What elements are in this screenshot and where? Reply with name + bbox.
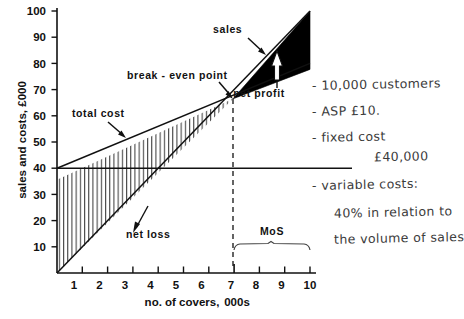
net-loss-label: net loss [126,228,170,240]
net-profit-region [233,11,310,99]
x-tick-label: 7 [228,279,234,291]
note-asp: - ASP £10. [312,103,381,119]
y-tick-label: 40 [33,162,46,174]
x-axis-ticks [82,264,310,273]
x-tick-label: 8 [253,279,260,291]
y-tick-label: 60 [33,110,46,122]
note-fixed-cost-value: £40,000 [348,148,429,165]
x-tick-label: 9 [278,279,284,291]
break-even-annotation: break - even point [127,69,233,99]
y-axis-ticks [52,11,58,247]
y-tick-label: 100 [27,5,46,17]
net-loss-annotation: net loss [126,206,170,240]
note-customers: - 10,000 customers [312,75,441,93]
note-fixed-cost: - fixed cost [312,128,386,145]
x-tick-label: 3 [122,279,128,291]
mos-label: MoS [260,225,284,237]
y-axis-title: sales and costs, £000 [16,81,28,199]
x-tick-label: 4 [147,279,154,291]
y-tick-label: 90 [33,31,46,43]
note-variable-costs: - variable costs: [312,176,419,193]
sales-label: sales [213,23,242,35]
y-tick-label: 20 [33,215,46,227]
x-axis-tick-labels: 1 2 3 4 5 6 7 8 9 10 [71,279,317,291]
sales-annotation: sales [213,23,266,55]
total-cost-label: total cost [72,107,125,119]
y-tick-label: 30 [33,189,46,201]
y-axis-tick-labels: 100 90 80 70 60 50 40 30 20 10 [27,5,46,253]
x-tick-label: 5 [173,279,180,291]
x-axis-title-covers: no. of covers, [145,296,220,308]
note-variable-detail-1: 40% in relation to [322,203,453,221]
x-tick-label: 2 [96,279,102,291]
net-profit-label: net profit [233,87,285,99]
margin-of-safety: MoS [234,225,310,250]
y-tick-label: 50 [33,136,46,148]
total-cost-annotation: total cost [72,107,126,138]
x-tick-label: 10 [304,279,317,291]
net-loss-region [57,99,233,273]
x-tick-label: 6 [198,279,204,291]
x-axis-title-thousands: 000s [224,296,250,308]
y-tick-label: 80 [33,58,46,70]
y-tick-label: 10 [33,241,46,253]
y-tick-label: 70 [33,84,46,96]
note-variable-detail-2: the volume of sales [322,229,464,247]
x-tick-label: 1 [71,279,78,291]
break-even-label: break - even point [127,69,228,81]
